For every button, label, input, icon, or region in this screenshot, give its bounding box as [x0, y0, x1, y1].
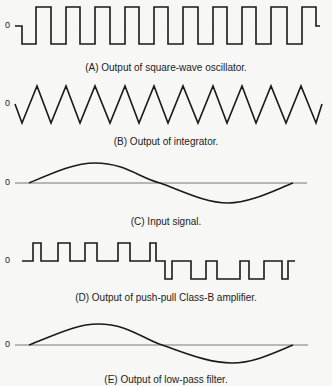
- zero-label-C: 0: [5, 177, 10, 187]
- triangle-wave-B: [15, 86, 322, 123]
- zero-label-E: 0: [5, 339, 10, 349]
- caption-C: (C) Input signal.: [0, 216, 332, 227]
- zero-label-D: 0: [5, 255, 10, 265]
- caption-D: (D) Output of push-pull Class-B amplifie…: [0, 292, 332, 303]
- waveform-diagram: [0, 0, 332, 386]
- zero-label-A: 0: [5, 20, 10, 30]
- square-wave-A: [15, 7, 320, 44]
- sine-wave-E: [29, 324, 293, 363]
- caption-A: (A) Output of square-wave oscillator.: [0, 62, 332, 73]
- pulse-wave-D: [22, 243, 295, 279]
- caption-E: (E) Output of low-pass filter.: [0, 374, 332, 385]
- caption-B: (B) Output of integrator.: [0, 136, 332, 147]
- zero-label-B: 0: [5, 98, 10, 108]
